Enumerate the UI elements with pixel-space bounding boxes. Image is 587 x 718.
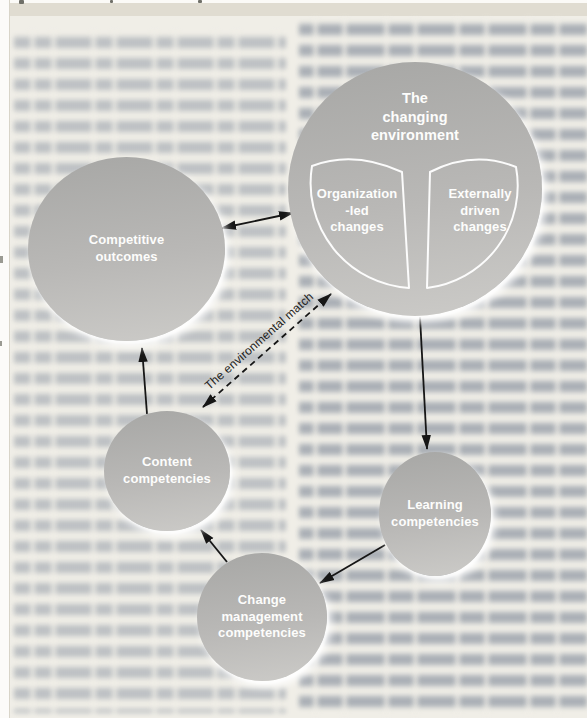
node-label: Learning competencies: [391, 497, 479, 530]
node-content-competencies: Content competencies: [104, 411, 230, 531]
node-label: Content competencies: [123, 454, 211, 487]
label-line: Change: [218, 592, 306, 609]
label-line: changes: [305, 219, 409, 236]
clipped-text-fragment: [110, 0, 113, 3]
label-line: changes: [428, 219, 532, 236]
node-competitive-outcomes: Competitive outcomes: [28, 157, 225, 341]
label-line: -led: [305, 203, 409, 220]
label-line: competencies: [123, 471, 211, 488]
page-edge-speck: [0, 256, 3, 263]
label-line: management: [218, 609, 306, 626]
node-changing-environment: The changing environment Organization -l…: [288, 62, 542, 316]
page-top-band: [8, 3, 587, 16]
node-label: Change management competencies: [218, 592, 306, 642]
label-line: driven: [428, 203, 532, 220]
page-left-margin: [0, 0, 10, 718]
clipped-text-fragment: [198, 0, 202, 3]
petal-label-externally-driven: Externally driven changes: [428, 186, 532, 236]
label-line: competencies: [391, 514, 479, 531]
node-label: Competitive outcomes: [89, 232, 165, 265]
node-change-management-competencies: Change management competencies: [197, 553, 327, 681]
label-line: competencies: [218, 625, 306, 642]
label-line: Organization: [305, 186, 409, 203]
label-line: Competitive: [89, 232, 165, 249]
label-line: Content: [123, 454, 211, 471]
page-edge-speck: [0, 341, 2, 346]
clipped-text-fragment: [19, 0, 24, 4]
label-line: outcomes: [89, 249, 165, 266]
label-line: Externally: [428, 186, 532, 203]
node-learning-competencies: Learning competencies: [379, 452, 491, 576]
label-line: Learning: [391, 497, 479, 514]
petal-label-organization-led: Organization -led changes: [305, 186, 409, 236]
